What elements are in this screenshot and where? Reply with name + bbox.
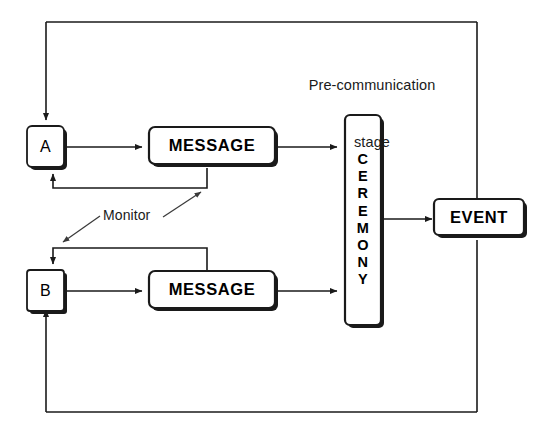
event-box[interactable] bbox=[434, 199, 524, 235]
message-bottom-box[interactable] bbox=[149, 271, 275, 308]
node-box-layer bbox=[0, 0, 544, 432]
message-top-box[interactable] bbox=[149, 127, 275, 164]
diagram-canvas: Pre-communication stage Monitor A B MESS… bbox=[0, 0, 544, 432]
node-b-box[interactable] bbox=[27, 270, 64, 311]
ceremony-box[interactable] bbox=[345, 115, 381, 325]
node-a-box[interactable] bbox=[27, 126, 64, 167]
